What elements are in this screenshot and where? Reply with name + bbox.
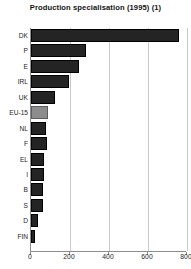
- y-axis-labels: DKPEIRLUKEU-15NLFELIBSDFIN: [0, 28, 28, 252]
- bar-d: [31, 214, 38, 227]
- y-axis-label-b: B: [0, 182, 28, 197]
- chart-title: Production specialisation (1995) (1): [0, 3, 191, 12]
- y-axis-label-s: S: [0, 198, 28, 213]
- y-axis-label-uk: UK: [0, 90, 28, 105]
- x-axis-label-0: 0: [28, 253, 32, 260]
- bars-layer: [31, 28, 186, 251]
- x-axis-label-200: 200: [63, 253, 74, 260]
- y-axis-label-d: D: [0, 213, 28, 228]
- x-axis-label-400: 400: [102, 253, 113, 260]
- bar-eu-15: [31, 106, 48, 119]
- y-axis-label-f: F: [0, 136, 28, 151]
- x-axis-label-800: 800: [180, 253, 191, 260]
- plot-area: [30, 28, 186, 252]
- y-axis-label-fin: FIN: [0, 229, 28, 244]
- y-axis-label-dk: DK: [0, 28, 28, 43]
- gridline: [187, 28, 188, 251]
- bar-f: [31, 137, 47, 150]
- y-axis-label-irl: IRL: [0, 74, 28, 89]
- bar-b: [31, 183, 43, 196]
- bar-uk: [31, 91, 55, 104]
- x-axis-label-600: 600: [141, 253, 152, 260]
- y-axis-label-i: I: [0, 167, 28, 182]
- y-axis-label-el: EL: [0, 152, 28, 167]
- bar-nl: [31, 122, 46, 135]
- bar-chart: Production specialisation (1995) (1) DKP…: [0, 0, 191, 269]
- y-axis-label-e: E: [0, 59, 28, 74]
- bar-s: [31, 199, 43, 212]
- y-axis-label-p: P: [0, 43, 28, 58]
- y-axis-label-eu-15: EU-15: [0, 105, 28, 120]
- bar-dk: [31, 29, 179, 42]
- bar-fin: [31, 230, 35, 243]
- bar-i: [31, 168, 44, 181]
- bar-p: [31, 44, 86, 57]
- x-axis-labels: 0200400600800: [0, 253, 191, 267]
- bar-e: [31, 60, 79, 73]
- y-axis-label-nl: NL: [0, 121, 28, 136]
- bar-irl: [31, 75, 69, 88]
- bar-el: [31, 153, 44, 166]
